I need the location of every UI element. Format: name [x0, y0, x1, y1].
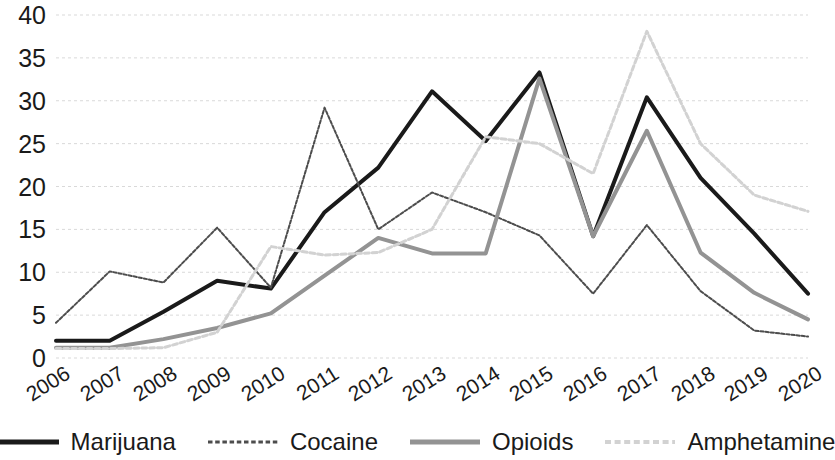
x-axis-tick-label: 2013 [394, 362, 449, 407]
y-axis-tick-label: 15 [0, 217, 46, 242]
x-axis-tick-label: 2010 [233, 362, 288, 407]
series-line-marijuana [56, 72, 808, 340]
plot-area [56, 15, 808, 358]
x-axis-tick-label: 2014 [448, 362, 503, 407]
x-axis-tick-label: 2015 [501, 362, 556, 407]
legend-item-cocaine[interactable]: Cocaine [206, 430, 378, 454]
x-axis: 2006200720082009201020112012201320142015… [56, 362, 808, 422]
x-axis-tick-label: 2019 [716, 362, 771, 407]
series-lines [56, 15, 808, 358]
legend-swatch-opioids [408, 435, 482, 449]
x-axis-tick-label: 2016 [555, 362, 610, 407]
y-axis-tick-label: 30 [0, 88, 46, 113]
x-axis-tick-label: 2009 [179, 362, 234, 407]
x-axis-tick-label: 2018 [662, 362, 717, 407]
x-axis-tick-label: 2012 [340, 362, 395, 407]
x-axis-tick-label: 2020 [770, 362, 825, 407]
legend-swatch-marijuana [0, 435, 61, 449]
x-axis-tick-label: 2007 [72, 362, 127, 407]
legend-item-marijuana[interactable]: Marijuana [0, 430, 176, 454]
y-axis-tick-label: 35 [0, 45, 46, 70]
y-axis: 0510152025303540 [0, 0, 46, 373]
legend-swatch-cocaine [206, 435, 280, 449]
legend-item-amphetamine[interactable]: Amphetamine [603, 430, 835, 454]
x-axis-tick-label: 2008 [125, 362, 180, 407]
legend-label: Cocaine [290, 430, 378, 454]
x-axis-tick-label: 2017 [609, 362, 664, 407]
legend-label: Marijuana [71, 430, 176, 454]
series-line-amphetamine [56, 31, 808, 348]
legend-item-opioids[interactable]: Opioids [408, 430, 573, 454]
y-axis-tick-label: 5 [0, 303, 46, 328]
y-axis-tick-label: 40 [0, 3, 46, 28]
y-axis-tick-label: 0 [0, 346, 46, 371]
y-axis-tick-label: 20 [0, 174, 46, 199]
x-axis-tick-label: 2011 [286, 362, 341, 407]
chart-legend: MarijuanaCocaineOpioidsAmphetamine [0, 424, 822, 460]
y-axis-tick-label: 10 [0, 260, 46, 285]
legend-label: Opioids [492, 430, 573, 454]
series-line-cocaine [56, 108, 808, 337]
legend-swatch-amphetamine [603, 435, 677, 449]
legend-label: Amphetamine [687, 430, 835, 454]
y-axis-tick-label: 25 [0, 131, 46, 156]
